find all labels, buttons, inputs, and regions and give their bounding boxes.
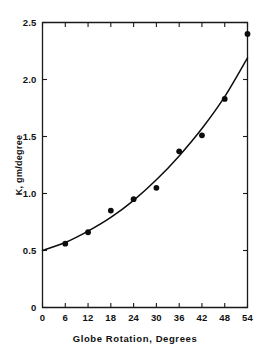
x-tick-label: 48: [219, 312, 230, 323]
y-tick-label: 2.5: [23, 17, 37, 28]
axis-tick-marks: [43, 23, 248, 308]
data-point: [176, 148, 182, 154]
y-axis-tick-labels: 00.51.01.52.02.5: [23, 17, 37, 313]
x-tick-label: 0: [40, 312, 45, 323]
y-tick-label: 0.5: [23, 245, 37, 256]
x-tick-label: 12: [83, 312, 94, 323]
x-tick-label: 6: [63, 312, 68, 323]
chart-canvas: 00.51.01.52.02.5 061218243036424854 Glob…: [0, 0, 271, 354]
chart-figure: 00.51.01.52.02.5 061218243036424854 Glob…: [0, 0, 271, 354]
x-tick-label: 24: [128, 312, 139, 323]
y-tick-label: 1.0: [23, 188, 37, 199]
x-tick-label: 18: [105, 312, 116, 323]
data-point: [85, 229, 91, 235]
data-point: [62, 241, 68, 247]
x-tick-label: 54: [242, 312, 253, 323]
chart-series-group: [43, 31, 251, 251]
data-point: [222, 96, 228, 102]
data-points-group: [62, 31, 250, 247]
x-tick-label: 42: [196, 312, 207, 323]
y-tick-label: 2.0: [23, 74, 37, 85]
data-point: [245, 31, 251, 37]
data-point: [108, 208, 114, 214]
y-tick-label: 1.5: [23, 131, 37, 142]
plot-frame: [43, 23, 248, 308]
data-point: [131, 196, 137, 202]
x-axis-tick-labels: 061218243036424854: [40, 312, 254, 323]
x-axis-title: Globe Rotation, Degrees: [73, 333, 198, 344]
fitted-curve: [43, 58, 248, 251]
x-tick-label: 30: [151, 312, 162, 323]
x-tick-label: 36: [174, 312, 185, 323]
y-axis-title: K, gm/degree: [14, 135, 24, 196]
y-tick-label: 0: [31, 302, 36, 313]
data-point: [199, 132, 205, 138]
data-point: [153, 185, 159, 191]
